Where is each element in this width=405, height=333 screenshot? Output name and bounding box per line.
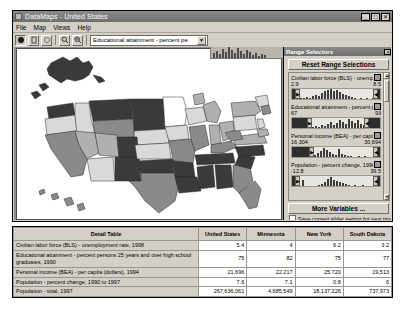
range-selector-max: 39.5 <box>370 168 381 174</box>
row-value-minnesota: 7.1 <box>247 277 295 287</box>
map-frame[interactable] <box>16 48 282 220</box>
table-row[interactable]: Population - total, 1997 267,636,061 4,6… <box>14 287 392 297</box>
range-selector-name-row: Population - percent change, 1990 to 19 <box>291 161 381 168</box>
range-selector-values: 2.9 8.5 <box>291 81 381 87</box>
row-label: Population - total, 1997 <box>14 287 199 297</box>
range-selector-item[interactable]: Personal income (BEA) - per capita (doll… <box>291 132 381 158</box>
chevron-down-icon[interactable]: ▼ <box>197 36 206 45</box>
table-row[interactable]: Personal income (BEA) - per capita (doll… <box>14 267 392 277</box>
histogram-icon <box>292 89 381 99</box>
pointer-tool-icon[interactable] <box>15 35 26 46</box>
mdi-desktop: Range Selectors ✕ Reset Range Selections… <box>14 47 391 220</box>
range-mask-right <box>378 176 380 186</box>
variable-select-value: Educational attainment - percent pe <box>91 37 197 43</box>
toolbar-separator-2 <box>86 35 87 45</box>
tool-bar: Educational attainment - percent pe ▼ <box>13 33 392 47</box>
menu-item-help[interactable]: Help <box>77 24 90 31</box>
zoom-out-tool-icon[interactable] <box>72 35 83 46</box>
range-handle-left[interactable]: ▶ <box>295 176 300 186</box>
hand-tool-icon[interactable] <box>28 35 39 46</box>
range-selector-histogram[interactable]: ▶ ◀ <box>291 88 381 100</box>
range-selectors-title: Range Selectors <box>286 49 333 55</box>
range-selector-item[interactable]: Educational attainment - percent persons… <box>291 103 381 129</box>
row-label: Educational attainment - percent persons… <box>14 250 199 267</box>
range-selector-list: Civilian labor force (BLS) - unemploymen… <box>289 73 383 200</box>
detail-table-body: Civilian labor force (BLS) - unemploymen… <box>14 241 392 297</box>
row-value-minnesota: 4,685,549 <box>247 287 295 297</box>
variable-select[interactable]: Educational attainment - percent pe ▼ <box>90 35 208 46</box>
toolbar-separator <box>55 35 56 45</box>
column-header-detail-table[interactable]: Detail Table <box>14 228 199 241</box>
row-value-south-dakota: 6 <box>343 277 391 287</box>
range-selector-histogram[interactable]: ▶ ◀ <box>291 146 381 158</box>
united-states-choropleth[interactable] <box>17 49 281 219</box>
range-selector-options-icon[interactable] <box>374 161 381 168</box>
close-icon[interactable]: ✕ <box>381 13 390 21</box>
histogram-icon <box>292 176 381 186</box>
range-handle-left[interactable]: ▶ <box>307 118 312 128</box>
circle-tool-icon[interactable] <box>41 35 52 46</box>
zoom-in-tool-icon[interactable] <box>59 35 70 46</box>
checkbox-box-icon[interactable] <box>289 215 296 220</box>
range-selector-name-row: Civilian labor force (BLS) - unemploymen… <box>291 74 381 81</box>
column-header-new-york[interactable]: New York <box>295 228 343 241</box>
column-header-south-dakota[interactable]: South Dakota <box>343 228 391 241</box>
row-value-new-york: 25,720 <box>295 267 343 277</box>
range-selectors-close-icon[interactable]: ✕ <box>384 49 391 55</box>
menu-item-views[interactable]: Views <box>53 24 70 31</box>
range-selector-min: 2.9 <box>291 81 299 87</box>
background-histogram-widget[interactable] <box>210 47 290 59</box>
range-selector-options-icon[interactable] <box>374 74 381 81</box>
scrollbar-thumb[interactable] <box>384 80 389 102</box>
range-selector-max: 8.5 <box>373 81 381 87</box>
range-list-scrollbar[interactable]: ▲ ▼ <box>383 73 389 200</box>
row-label: Population - percent change, 1990 to 199… <box>14 277 199 287</box>
row-value-united-states: 75 <box>199 250 247 267</box>
row-label: Personal income (BEA) - per capita (doll… <box>14 267 199 277</box>
detail-table-head: Detail Table United States Minnesota New… <box>14 228 392 241</box>
range-selector-options-icon[interactable] <box>374 103 381 110</box>
table-row[interactable]: Educational attainment - percent persons… <box>14 250 392 267</box>
more-variables-button[interactable]: More Variables ... <box>288 203 389 214</box>
row-value-new-york: 0.8 <box>295 277 343 287</box>
app-icon <box>15 13 22 20</box>
column-header-united-states[interactable]: United States <box>199 228 247 241</box>
scroll-up-icon[interactable]: ▲ <box>384 73 389 79</box>
window-title: DataMaps - United States <box>25 13 108 20</box>
range-mask-left <box>292 147 309 157</box>
range-handle-left[interactable]: ▶ <box>309 147 314 157</box>
column-header-minnesota[interactable]: Minnesota <box>247 228 295 241</box>
row-value-minnesota: 82 <box>247 250 295 267</box>
row-value-south-dakota: 3.2 <box>343 241 391 251</box>
range-selector-histogram[interactable]: ▶ ◀ <box>291 117 381 129</box>
range-selector-item[interactable]: Civilian labor force (BLS) - unemploymen… <box>291 74 381 100</box>
menu-item-map[interactable]: Map <box>33 24 46 31</box>
window-controls: _ □ ✕ <box>361 13 390 21</box>
range-handle-left[interactable]: ▶ <box>295 89 300 99</box>
range-selector-name: Educational attainment - percent persons <box>291 104 373 110</box>
range-selector-name: Civilian labor force (BLS) - unemploymen… <box>291 75 373 81</box>
range-selector-values: -12.8 39.5 <box>291 168 381 174</box>
background-histogram-icon <box>211 47 289 58</box>
scroll-down-icon[interactable]: ▼ <box>384 194 389 200</box>
range-selector-name-row: Educational attainment - percent persons <box>291 103 381 110</box>
row-value-united-states: 5.4 <box>199 241 247 251</box>
table-row[interactable]: Population - percent change, 1990 to 199… <box>14 277 392 287</box>
row-value-new-york: 6.2 <box>295 241 343 251</box>
range-mask-right <box>369 118 380 128</box>
range-selector-histogram[interactable]: ▶ ◀ <box>291 175 381 187</box>
maximize-icon[interactable]: □ <box>371 13 380 21</box>
range-selectors-scroll-pane: Civilian labor force (BLS) - unemploymen… <box>288 72 390 201</box>
menu-bar: File Map Views Help <box>13 22 392 33</box>
minimize-icon[interactable]: _ <box>361 13 370 21</box>
detail-table: Detail Table United States Minnesota New… <box>12 226 393 298</box>
menu-item-file[interactable]: File <box>16 24 26 31</box>
row-value-minnesota: 4 <box>247 241 295 251</box>
table-row[interactable]: Civilian labor force (BLS) - unemploymen… <box>14 241 392 251</box>
row-value-united-states: 267,636,061 <box>199 287 247 297</box>
reset-range-selections-button[interactable]: Reset Range Selections <box>288 59 389 70</box>
range-selector-item[interactable]: Population - percent change, 1990 to 19 … <box>291 161 381 187</box>
save-slider-setting-checkbox[interactable]: Save current slider setting for next tim… <box>289 215 389 220</box>
range-selector-options-icon[interactable] <box>374 132 381 139</box>
save-slider-setting-label: Save current slider setting for next tim… <box>298 216 391 221</box>
